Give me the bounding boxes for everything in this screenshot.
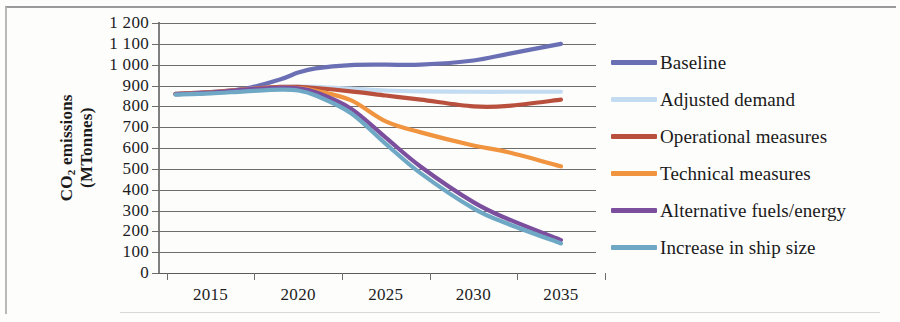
legend-item-label: Technical measures bbox=[660, 163, 811, 185]
y-axis-title-line1: CO2 emissions bbox=[57, 94, 76, 201]
y-axis-tick-label: 100 bbox=[123, 242, 149, 262]
legend-item[interactable]: Technical measures bbox=[611, 155, 891, 192]
x-axis: 20152020202520302035 bbox=[158, 273, 596, 318]
y-axis-tick-label: 200 bbox=[123, 221, 149, 241]
legend-color-swatch bbox=[611, 208, 657, 213]
y-axis-title-co: CO bbox=[57, 175, 76, 201]
legend-item-label: Operational measures bbox=[660, 126, 827, 148]
legend-item-label: Baseline bbox=[660, 52, 726, 74]
chart-legend: BaselineAdjusted demandOperational measu… bbox=[611, 44, 891, 266]
y-axis-title: CO2 emissions (MTonnes) bbox=[57, 18, 96, 278]
legend-color-swatch bbox=[611, 134, 657, 139]
legend-item[interactable]: Alternative fuels/energy bbox=[611, 192, 891, 229]
x-axis-tick bbox=[342, 273, 343, 280]
legend-color-swatch bbox=[611, 171, 657, 176]
plot-area: 1 2001 1001 0009008007006005004003002001… bbox=[158, 23, 596, 273]
legend-item[interactable]: Increase in ship size bbox=[611, 229, 891, 266]
y-axis-tick-label: 400 bbox=[123, 180, 149, 200]
y-axis-title-line2: (MTonnes) bbox=[78, 107, 97, 188]
series-curves bbox=[158, 23, 596, 273]
y-axis-tick-label: 1 100 bbox=[109, 34, 149, 54]
y-axis-title-subscript: 2 bbox=[65, 170, 77, 176]
x-axis-tick-label: 2025 bbox=[368, 285, 403, 305]
x-axis-tick bbox=[605, 273, 606, 280]
series-line bbox=[176, 44, 561, 94]
legend-item-label: Adjusted demand bbox=[660, 89, 795, 111]
x-axis-tick-label: 2020 bbox=[281, 285, 316, 305]
x-axis-tick bbox=[430, 273, 431, 280]
x-axis-tick bbox=[254, 273, 255, 280]
legend-color-swatch bbox=[611, 97, 657, 102]
x-axis-tick-label: 2035 bbox=[543, 285, 578, 305]
legend-item[interactable]: Adjusted demand bbox=[611, 81, 891, 118]
x-axis-tick-label: 2015 bbox=[193, 285, 228, 305]
y-axis-tick-label: 1 200 bbox=[109, 13, 149, 33]
legend-item[interactable]: Operational measures bbox=[611, 118, 891, 155]
x-axis-tick bbox=[517, 273, 518, 280]
legend-item[interactable]: Baseline bbox=[611, 44, 891, 81]
legend-color-swatch bbox=[611, 245, 657, 250]
y-axis-tick-label: 300 bbox=[123, 201, 149, 221]
chart-figure: CO2 emissions (MTonnes) 1 2001 1001 0009… bbox=[0, 0, 900, 322]
y-axis-tick-label: 500 bbox=[123, 159, 149, 179]
legend-color-swatch bbox=[611, 60, 657, 65]
y-axis-title-emissions: emissions bbox=[57, 94, 76, 169]
legend-item-label: Increase in ship size bbox=[660, 237, 816, 259]
x-axis-tick-label: 2030 bbox=[456, 285, 491, 305]
y-axis-tick-label: 1 000 bbox=[109, 55, 149, 75]
legend-item-label: Alternative fuels/energy bbox=[660, 200, 846, 222]
y-axis-tick-label: 600 bbox=[123, 138, 149, 158]
x-axis-tick bbox=[167, 273, 168, 280]
y-axis-tick-label: 900 bbox=[123, 76, 149, 96]
y-axis-tick-label: 800 bbox=[123, 96, 149, 116]
y-axis-tick-label: 700 bbox=[123, 117, 149, 137]
y-axis-tick-label: 0 bbox=[140, 263, 149, 283]
